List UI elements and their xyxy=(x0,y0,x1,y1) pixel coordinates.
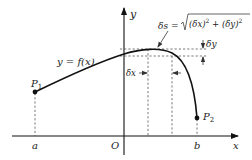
dx-label: δx xyxy=(126,68,136,78)
point-p1 xyxy=(33,90,38,95)
svg-text:δs =: δs = xyxy=(158,21,178,31)
p2-label: P2 xyxy=(202,111,214,124)
ds-leader xyxy=(158,31,168,47)
a-label: a xyxy=(32,140,38,151)
y-axis-label: y xyxy=(129,8,137,21)
ds-formula: δs = (δx)2 + (δy)2 xyxy=(158,14,250,31)
arc-length-diagram: y x O a b y = f(x) P1 P2 δx δy δs = (δx)… xyxy=(0,0,252,160)
p1-label: P1 xyxy=(30,78,42,91)
svg-text:(δx)2 + (δy)2: (δx)2 + (δy)2 xyxy=(189,17,242,29)
x-axis-label: x xyxy=(233,140,239,151)
b-label: b xyxy=(194,140,200,151)
curve-label: y = f(x) xyxy=(56,56,95,67)
origin-label: O xyxy=(111,140,119,151)
point-p2 xyxy=(195,116,200,121)
dy-label: δy xyxy=(206,39,217,49)
